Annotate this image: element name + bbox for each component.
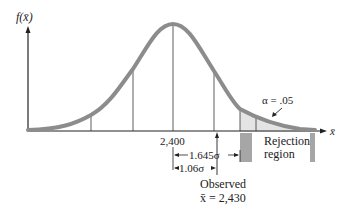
hypothesis-test-diagram: f(x̄) x̄ 2,400 α = .05 Rejection region … — [0, 0, 353, 208]
x-axis-label: x̄ — [329, 125, 335, 137]
mean-label: 2,400 — [160, 135, 185, 147]
observed-label-line1: Observed — [200, 177, 246, 191]
rejection-label-line1: Rejection — [264, 134, 310, 148]
normal-curve — [28, 24, 315, 130]
observed-arrow-icon — [215, 132, 219, 138]
y-axis-arrow-icon — [26, 26, 31, 33]
x-axis-arrow-icon — [320, 129, 327, 134]
alpha-label: α = .05 — [262, 94, 294, 106]
y-axis-label: f(x̄) — [16, 10, 33, 24]
critical-distance-label: 1.645σ — [189, 149, 220, 161]
observed-label-line2: x̄ = 2,430 — [200, 191, 246, 205]
observed-distance-label: 1.06σ — [179, 162, 204, 174]
rejection-label-line2: region — [264, 147, 295, 161]
